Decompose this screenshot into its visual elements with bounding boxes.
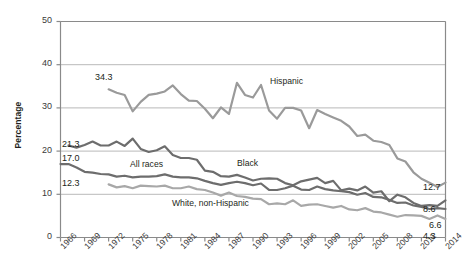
start-value-black: 21.3 — [62, 139, 80, 149]
y-tick-label-0: 0 — [26, 231, 52, 241]
end-value-black: 8.6 — [423, 204, 436, 214]
end-value-hispanic: 12.7 — [423, 182, 441, 192]
series-line-black — [69, 139, 446, 206]
grid-lines — [61, 22, 446, 195]
y-tick-label-10: 10 — [26, 188, 52, 198]
start-value-all-races: 17.0 — [62, 153, 80, 163]
end-value-all-races: 6.6 — [429, 220, 442, 230]
series-label-white-non-hispanic: White, non-Hispanic — [172, 198, 249, 208]
y-tick-label-30: 30 — [26, 101, 52, 111]
chart-container: Percentage 50403020100 19661969197219751… — [0, 0, 468, 276]
start-value-hispanic: 34.3 — [95, 72, 113, 82]
axis-lines — [61, 22, 446, 238]
y-tick-label-40: 40 — [26, 58, 52, 68]
series-label-black: Black — [237, 158, 258, 168]
y-tick-label-50: 50 — [26, 15, 52, 25]
end-value-white: 4.3 — [423, 231, 436, 241]
series-line-hispanic — [109, 83, 446, 187]
y-tick-label-20: 20 — [26, 145, 52, 155]
series-label-hispanic: Hispanic — [270, 76, 303, 86]
series-label-all-races: All races — [130, 159, 163, 169]
start-value-white: 12.3 — [62, 178, 80, 188]
